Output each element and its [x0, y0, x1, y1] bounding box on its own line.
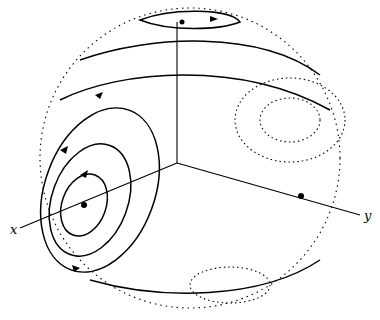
sphere-flow-figure	[0, 0, 380, 320]
fixed-point-y	[298, 193, 304, 199]
y-axis-label: y	[364, 208, 371, 223]
dotted-loop-2	[235, 78, 345, 162]
x-axis-label: x	[10, 222, 17, 237]
sphere-diagram: x y	[0, 0, 380, 320]
arrow-icon	[210, 16, 218, 22]
arrow-icon	[60, 146, 68, 154]
dotted-loop-1	[260, 98, 320, 142]
sphere-outline	[40, 8, 340, 308]
arrow-icon	[95, 92, 103, 99]
flow-line-lower	[90, 260, 320, 293]
flow-line-upper-1	[60, 75, 330, 110]
flow-line-upper-2	[80, 41, 320, 75]
flow-loop-3	[19, 91, 181, 288]
fixed-point-x	[81, 202, 87, 208]
fixed-point-top	[180, 20, 185, 25]
flow-loop-top	[140, 11, 240, 28]
y-axis	[177, 163, 360, 215]
x-axis	[20, 163, 177, 228]
